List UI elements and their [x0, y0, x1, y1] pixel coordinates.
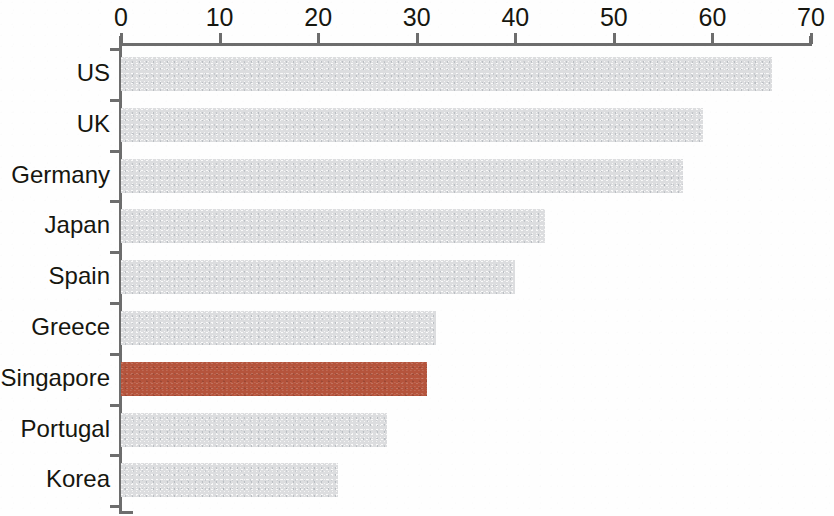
y-axis-category-label: Spain: [49, 262, 110, 290]
x-axis-tick-label: 40: [485, 3, 545, 32]
y-axis-tick: [110, 200, 121, 203]
x-axis-tick-label: 10: [190, 3, 250, 32]
y-axis-category-label: Portugal: [21, 415, 110, 443]
y-axis-tick: [110, 48, 121, 51]
y-axis-end-cap: [119, 511, 133, 514]
y-axis-tick: [110, 302, 121, 305]
y-axis-tick: [110, 150, 121, 153]
bar: [121, 159, 683, 193]
bar: [121, 108, 703, 142]
x-axis-tick-label: 50: [584, 3, 644, 32]
bar: [121, 463, 338, 497]
x-axis-tick-label: 60: [682, 3, 742, 32]
y-axis-tick: [110, 99, 121, 102]
y-axis-category-label: UK: [77, 110, 110, 138]
y-axis-category-labels: USUKGermanyJapanSpainGreeceSingaporePort…: [0, 0, 110, 516]
y-axis-tick: [110, 353, 121, 356]
x-axis-tick: [514, 33, 517, 44]
bar: [121, 57, 772, 91]
y-axis-tick: [110, 454, 121, 457]
x-axis-tick: [416, 33, 419, 44]
x-axis-tick: [613, 33, 616, 44]
bar-highlighted: [121, 362, 427, 396]
bar: [121, 260, 515, 294]
y-axis-category-label: Japan: [45, 211, 110, 239]
x-axis-tick: [120, 33, 123, 44]
bar: [121, 413, 387, 447]
y-axis-category-label: Singapore: [1, 364, 110, 392]
bar: [121, 311, 436, 345]
y-axis-category-label: US: [77, 59, 110, 87]
x-axis-tick-label: 20: [288, 3, 348, 32]
y-axis-category-label: Germany: [11, 161, 110, 189]
bar: [121, 209, 545, 243]
y-axis-tick: [110, 251, 121, 254]
bar-chart: 010203040506070 USUKGermanyJapanSpainGre…: [0, 0, 834, 516]
x-axis-tick-label: 70: [781, 3, 834, 32]
x-axis-tick-label: 30: [387, 3, 447, 32]
x-axis-tick: [219, 33, 222, 44]
y-axis-category-label: Greece: [31, 313, 110, 341]
x-axis-line: [121, 43, 811, 46]
y-axis-category-label: Korea: [46, 465, 110, 493]
x-axis-tick: [810, 33, 813, 44]
x-axis-tick: [711, 33, 714, 44]
y-axis-tick: [110, 404, 121, 407]
x-axis-tick: [317, 33, 320, 44]
y-axis-tick: [110, 505, 121, 508]
